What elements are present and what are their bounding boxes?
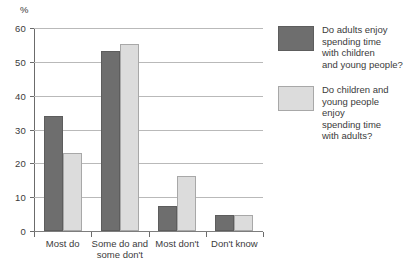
- x-tick: [34, 232, 35, 237]
- bar-group: [158, 28, 196, 231]
- legend-swatch: [278, 26, 314, 51]
- plot-area: [34, 28, 263, 231]
- bar-group: [44, 28, 82, 231]
- bar[interactable]: [101, 51, 120, 231]
- bar[interactable]: [44, 116, 63, 231]
- bar[interactable]: [158, 206, 177, 231]
- legend-entry[interactable]: Do children and young people enjoy spend…: [278, 84, 404, 142]
- x-tick: [206, 232, 207, 237]
- x-tick: [263, 232, 264, 237]
- bar[interactable]: [63, 153, 82, 231]
- legend-entry[interactable]: Do adults enjoy spending time with child…: [278, 24, 404, 70]
- x-tick: [91, 232, 92, 237]
- legend: Do adults enjoy spending time with child…: [278, 24, 404, 156]
- bar[interactable]: [215, 215, 234, 231]
- bar[interactable]: [177, 176, 196, 231]
- legend-label: Do children and young people enjoy spend…: [322, 84, 404, 142]
- legend-label: Do adults enjoy spending time with child…: [322, 24, 404, 70]
- bar-group: [215, 28, 253, 231]
- bar[interactable]: [234, 215, 253, 231]
- bar[interactable]: [120, 44, 139, 231]
- bar-chart-figure: % 0102030405060 Most doSome do and some …: [0, 0, 404, 276]
- x-tick: [149, 232, 150, 237]
- legend-swatch: [278, 86, 314, 111]
- x-category-label: Don't know: [200, 238, 269, 249]
- y-axis-unit-label: %: [20, 4, 28, 15]
- bar-group: [101, 28, 139, 231]
